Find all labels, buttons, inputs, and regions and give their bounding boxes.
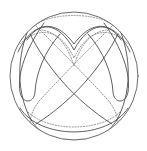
- disk-background: [10, 12, 138, 140]
- curve-system-diagram: [0, 0, 147, 151]
- figure-root: [0, 0, 147, 151]
